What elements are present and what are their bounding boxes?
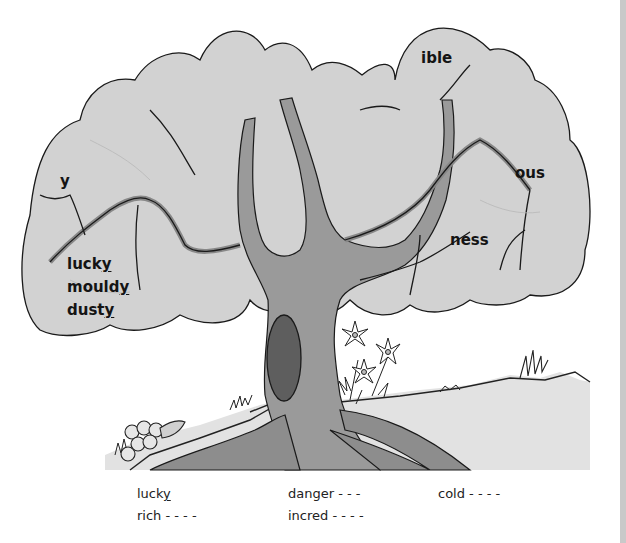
- daisy-flowers-icon: [339, 321, 400, 404]
- word-stem: danger: [288, 486, 334, 501]
- suffix-label-ous: ous: [515, 164, 545, 182]
- word-ending: y: [102, 255, 112, 273]
- word-stem: cold: [438, 486, 465, 501]
- branch-word-lucky: lucky: [67, 255, 111, 273]
- exercise-word-incred: incred - - - -: [288, 508, 364, 524]
- word-stem: dust: [67, 301, 105, 319]
- branch-word-dusty: dusty: [67, 301, 114, 319]
- page-edge-strip: [620, 0, 626, 543]
- word-ending: y: [105, 301, 115, 319]
- exercise-word-list: lucky rich - - - - danger - - - incred -…: [137, 484, 557, 534]
- exercise-word-danger: danger - - -: [288, 486, 361, 502]
- word-stem: luck: [67, 255, 102, 273]
- suffix-label-ible: ible: [421, 49, 452, 67]
- exercise-word-lucky: lucky: [137, 486, 171, 502]
- word-blanks: - - - -: [465, 486, 500, 501]
- word-blanks: - - - -: [161, 508, 196, 523]
- trunk-hollow: [267, 315, 301, 401]
- suffix-label-y: y: [60, 172, 70, 190]
- word-blanks: - - - -: [328, 508, 363, 523]
- word-stem: luck: [137, 486, 163, 501]
- word-stem: mould: [67, 278, 120, 296]
- worksheet-page: y ible ous ness lucky mouldy dusty lucky…: [0, 0, 620, 543]
- suffix-label-ness: ness: [450, 231, 489, 249]
- word-blanks: - - -: [334, 486, 360, 501]
- tree-illustration: [0, 0, 620, 480]
- exercise-word-cold: cold - - - -: [438, 486, 500, 502]
- word-stem: rich: [137, 508, 161, 523]
- exercise-word-rich: rich - - - -: [137, 508, 197, 524]
- word-stem: incred: [288, 508, 328, 523]
- branch-word-mouldy: mouldy: [67, 278, 129, 296]
- word-ending: y: [163, 486, 171, 501]
- word-ending: y: [120, 278, 130, 296]
